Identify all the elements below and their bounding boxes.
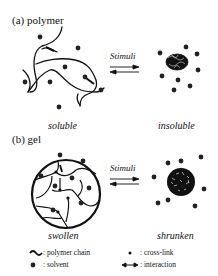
shrunken-gel bbox=[167, 168, 195, 196]
solvent-molecule bbox=[166, 161, 171, 166]
solvent-molecule bbox=[70, 176, 75, 181]
cross-link bbox=[66, 196, 69, 199]
legend-label: interaction bbox=[144, 260, 176, 269]
solvent-molecule bbox=[166, 198, 171, 203]
solvent-molecule bbox=[53, 184, 58, 189]
solvent-molecule bbox=[23, 80, 28, 85]
solvent-molecule bbox=[156, 201, 161, 206]
interaction-marks-b bbox=[60, 165, 62, 172]
cross-link bbox=[56, 210, 59, 213]
solvent-molecule bbox=[193, 204, 198, 209]
solvent-molecule bbox=[87, 186, 92, 191]
solvent-molecule bbox=[57, 105, 62, 110]
solvent-molecule bbox=[172, 88, 177, 93]
solvent-molecule bbox=[79, 201, 84, 206]
solvent-icon bbox=[31, 263, 36, 268]
legend-separator: : bbox=[43, 260, 45, 269]
solvent-molecule bbox=[38, 35, 43, 40]
legend-interaction: : interaction bbox=[140, 260, 176, 269]
solvent-molecule bbox=[99, 88, 104, 93]
solvent-molecule bbox=[179, 159, 184, 164]
solvent-molecule bbox=[152, 175, 157, 180]
cross-links bbox=[54, 170, 69, 213]
legend-label: cross-link bbox=[144, 248, 174, 257]
solvent-molecule bbox=[83, 75, 88, 80]
insoluble-globule bbox=[166, 54, 188, 70]
solvent-molecule bbox=[160, 74, 165, 79]
solvent-molecule bbox=[176, 78, 181, 83]
legend-label: solvent bbox=[47, 260, 69, 269]
solvent-molecule bbox=[195, 52, 200, 57]
solvent-molecule bbox=[202, 187, 207, 192]
solvent-molecule bbox=[199, 155, 204, 160]
equilibrium-arrows-b bbox=[110, 177, 139, 186]
legend-solvent: : solvent bbox=[43, 260, 69, 269]
solvent-molecule bbox=[48, 80, 53, 85]
diagram-canvas bbox=[0, 0, 218, 276]
interaction-icon bbox=[122, 263, 138, 267]
solvent-molecule bbox=[51, 208, 56, 213]
solvent-molecule bbox=[39, 174, 44, 179]
solvent-molecule bbox=[158, 51, 163, 56]
legend-separator: : bbox=[140, 248, 142, 257]
legend-polymer-chain: : polymer chain bbox=[43, 248, 90, 257]
solvent-molecule bbox=[188, 84, 193, 89]
solvent-molecule bbox=[63, 65, 68, 70]
cross-link bbox=[58, 188, 61, 191]
solvent-molecule bbox=[184, 45, 189, 50]
cross-link bbox=[54, 170, 57, 173]
solvent-molecule bbox=[76, 46, 81, 51]
equilibrium-arrows-a bbox=[110, 65, 139, 74]
solvent-molecule bbox=[58, 153, 63, 158]
solvent-molecule bbox=[81, 159, 86, 164]
legend-cross-link: : cross-link bbox=[140, 248, 174, 257]
legend-separator: : bbox=[43, 248, 45, 257]
solvent-molecule bbox=[196, 68, 201, 73]
legend-label: polymer chain bbox=[47, 248, 90, 257]
legend-separator: : bbox=[140, 260, 142, 269]
polymer-chain-icon bbox=[30, 251, 42, 255]
swollen-gel bbox=[32, 160, 100, 228]
cross-link-icon bbox=[129, 252, 132, 255]
